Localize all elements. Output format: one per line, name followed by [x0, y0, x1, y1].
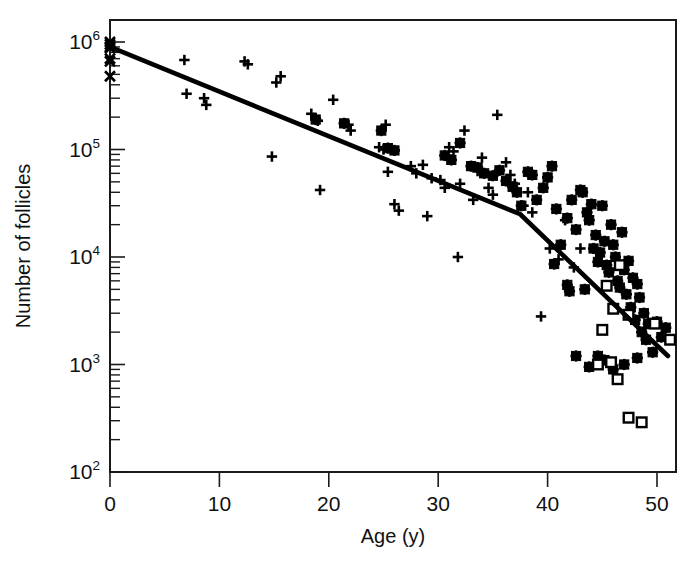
- data-point: [536, 311, 546, 321]
- data-points-layer: [105, 37, 675, 427]
- x-tick-label: 20: [317, 492, 340, 515]
- y-tick-label: 106: [69, 28, 100, 53]
- data-point: [454, 137, 465, 148]
- data-point: [584, 215, 595, 226]
- y-axis-title: Number of follicles: [12, 164, 34, 329]
- data-point: [527, 207, 537, 217]
- data-point: [201, 100, 211, 110]
- data-point: [418, 160, 428, 170]
- data-point: [647, 347, 658, 358]
- data-point: [624, 413, 634, 423]
- data-point: [179, 55, 189, 65]
- data-point: [339, 118, 350, 129]
- data-point: [494, 165, 505, 176]
- data-point: [632, 352, 643, 363]
- data-point: [615, 260, 625, 270]
- data-point: [328, 95, 338, 105]
- data-point: [199, 93, 209, 103]
- data-point: [575, 243, 585, 253]
- data-point: [638, 308, 649, 319]
- data-point: [637, 417, 647, 427]
- y-tick-label: 105: [69, 136, 100, 161]
- data-point: [619, 359, 630, 370]
- data-point: [660, 322, 671, 333]
- data-point: [570, 224, 581, 235]
- data-point: [446, 154, 457, 165]
- regression-line: [110, 47, 668, 356]
- data-point: [586, 199, 597, 210]
- data-point: [632, 278, 643, 289]
- data-point: [523, 187, 533, 197]
- data-point: [602, 281, 612, 291]
- data-point: [564, 286, 575, 297]
- data-point: [376, 125, 387, 136]
- data-point: [549, 258, 560, 269]
- data-point: [570, 350, 581, 361]
- data-point: [315, 185, 325, 195]
- data-point: [598, 325, 608, 335]
- data-point: [593, 360, 603, 370]
- data-point: [546, 161, 557, 172]
- regression-line-layer: [110, 47, 668, 356]
- data-point: [579, 284, 590, 295]
- x-tick-label: 0: [104, 492, 116, 515]
- data-point: [605, 219, 616, 230]
- y-tick-label: 103: [69, 351, 100, 376]
- data-point: [383, 167, 393, 177]
- data-point: [181, 89, 191, 99]
- x-tick-label: 10: [208, 492, 231, 515]
- data-point: [422, 211, 432, 221]
- data-point: [538, 182, 549, 193]
- x-axis-title: Age (y): [361, 525, 425, 547]
- data-point: [511, 187, 522, 198]
- data-point: [665, 335, 675, 345]
- data-point: [531, 194, 542, 205]
- data-point: [616, 227, 627, 238]
- data-point: [562, 213, 573, 224]
- x-axis-ticks: [110, 472, 657, 487]
- data-point: [516, 200, 527, 211]
- data-point: [453, 252, 463, 262]
- y-axis-ticks: [110, 42, 125, 472]
- y-tick-label: 104: [69, 243, 100, 268]
- follicle-count-figure: 106105104103102 01020304050 Age (y) Numb…: [0, 0, 698, 564]
- data-point: [477, 152, 487, 162]
- data-point: [621, 289, 632, 300]
- x-axis-tick-labels: 01020304050: [104, 492, 669, 515]
- y-axis-tick-labels: 106105104103102: [69, 28, 100, 483]
- x-tick-label: 50: [645, 492, 668, 515]
- data-point: [389, 145, 400, 156]
- data-point: [492, 110, 502, 120]
- data-point: [577, 187, 588, 198]
- data-point: [634, 292, 645, 303]
- x-tick-label: 30: [427, 492, 450, 515]
- x-tick-label: 40: [536, 492, 559, 515]
- data-point: [613, 374, 623, 384]
- data-point: [310, 114, 321, 125]
- chart-canvas: 106105104103102 01020304050 Age (y) Numb…: [0, 0, 698, 564]
- data-point: [551, 203, 562, 214]
- data-point: [597, 200, 608, 211]
- y-tick-label: 102: [69, 458, 100, 483]
- data-point: [527, 169, 538, 180]
- data-point: [606, 357, 616, 367]
- data-point: [595, 247, 606, 258]
- data-point: [566, 194, 577, 205]
- data-point: [459, 125, 469, 135]
- data-point: [608, 239, 619, 250]
- data-point: [650, 319, 660, 329]
- data-point: [542, 172, 553, 183]
- data-point: [267, 151, 277, 161]
